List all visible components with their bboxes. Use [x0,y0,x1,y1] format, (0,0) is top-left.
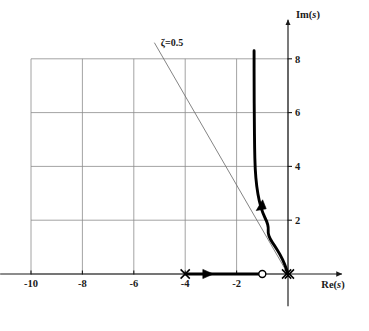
root-locus-plot: -10-8-6-4-2 2468 Re(s) Im(s) ζ=0.5 [0,0,369,331]
x-axis-tick-label: -6 [129,278,138,289]
locus-direction-arrow [203,269,214,278]
x-axis-tick-label: -8 [78,278,87,289]
locus-direction-arrow [256,200,266,211]
zero-markers [259,271,266,278]
locus-direction-arrows [203,200,266,279]
y-axis-tick-label: 6 [295,107,300,118]
x-axis-tick-label: -2 [232,278,241,289]
y-axis-label: Im(s) [296,9,320,21]
x-axis-label: Re(s) [321,279,345,291]
root-locus-figure: -10-8-6-4-2 2468 Re(s) Im(s) ζ=0.5 [0,0,369,331]
y-axis-tick-label: 8 [295,54,300,65]
zero-marker [259,271,266,278]
damping-ratio-line [154,43,288,274]
y-axis-tick-label: 2 [295,215,300,226]
gridlines [31,59,288,274]
x-axis-tick-labels: -10-8-6-4-2 [24,278,241,289]
y-axis-tick-labels: 2468 [295,54,301,226]
x-axis-tick-label: -10 [24,278,38,289]
y-axis: 2468 [288,20,302,306]
locus-branch [254,51,288,274]
damping-ratio-label: ζ=0.5 [161,37,183,49]
x-axis-tick-label: -4 [181,278,190,289]
y-axis-tick-label: 4 [295,161,301,172]
